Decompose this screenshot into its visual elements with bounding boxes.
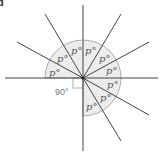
right-angle-marker	[73, 78, 83, 88]
svg-text:p°: p°	[86, 101, 97, 112]
svg-text:p°: p°	[100, 92, 111, 103]
svg-text:p°: p°	[85, 45, 96, 56]
center-point	[81, 76, 84, 79]
svg-text:p°: p°	[71, 45, 82, 56]
svg-text:p°: p°	[99, 53, 110, 64]
svg-text:p°: p°	[106, 65, 117, 76]
svg-text:p°: p°	[49, 67, 60, 78]
angles-around-point-diagram: 90° p° p° p° p° p° p° p° p° p°	[0, 0, 160, 153]
right-angle-label: 90°	[55, 87, 69, 97]
svg-text:p°: p°	[107, 79, 118, 90]
svg-text:p°: p°	[57, 53, 68, 64]
